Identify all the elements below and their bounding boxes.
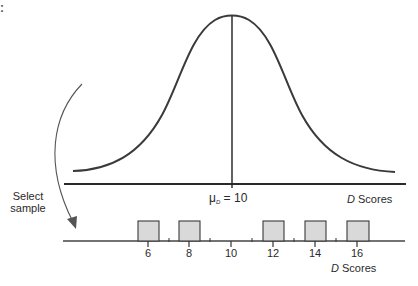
tick-label-6: 6 <box>138 248 158 259</box>
select-sample-arrow <box>55 84 82 222</box>
population-axis-var: D <box>347 193 355 205</box>
sample-axis-var: D <box>331 262 339 274</box>
sampling-diagram <box>0 0 418 286</box>
mean-value: 10 <box>234 191 247 205</box>
sample-axis-text: Scores <box>342 262 376 274</box>
tick-label-14: 14 <box>305 248 325 259</box>
tick-label-8: 8 <box>179 248 199 259</box>
mu-subscript: D <box>216 199 220 205</box>
sample-box-8 <box>179 221 200 241</box>
sample-box-14 <box>305 221 326 241</box>
sample-axis-label: D Scores <box>331 263 376 274</box>
sample-box-12 <box>263 221 284 241</box>
population-mean-label: μD = 10 <box>209 192 247 205</box>
population-axis-text: Scores <box>358 193 392 205</box>
select-sample-line1: Select <box>13 190 44 202</box>
normal-distribution-curve <box>73 16 395 173</box>
sample-boxes <box>138 221 369 241</box>
tick-label-10: 10 <box>221 248 241 259</box>
tick-label-16: 16 <box>347 248 367 259</box>
select-sample-line2: sample <box>10 202 45 214</box>
sample-box-6 <box>138 221 159 241</box>
equals-sign: = <box>224 191 231 205</box>
arrowhead-icon <box>67 216 77 229</box>
sample-box-16 <box>347 221 369 241</box>
mu-symbol: μ <box>209 191 216 205</box>
population-axis-label: D Scores <box>347 194 392 205</box>
tick-label-12: 12 <box>263 248 283 259</box>
select-sample-label: Select sample <box>6 190 50 214</box>
